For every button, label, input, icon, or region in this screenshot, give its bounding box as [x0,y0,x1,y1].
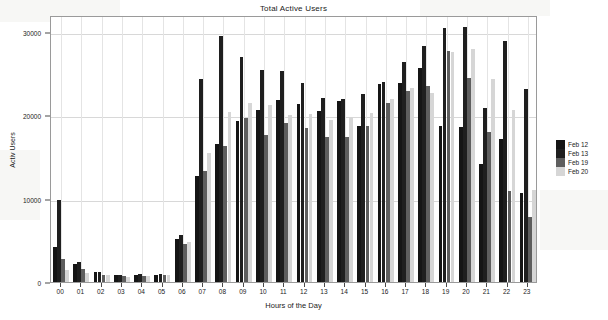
legend-item: Feb 12 [556,140,604,149]
x-tick-mark [182,283,183,287]
bar-group [73,17,89,282]
x-axis-label: Hours of the Day [50,301,537,310]
bar-group [439,17,455,282]
bar-group [236,17,252,282]
x-tick-mark [304,283,305,287]
bar-group [154,17,170,282]
y-tick-label: 20000 [23,113,41,120]
bar [532,190,536,282]
x-tick-label: 06 [178,288,185,295]
x-tick-mark [80,283,81,287]
x-tick-label: 13 [320,288,327,295]
x-tick-label: 22 [503,288,510,295]
x-tick-label: 16 [381,288,388,295]
bar-group [337,17,353,282]
bar [228,112,232,282]
x-tick-mark [507,283,508,287]
x-tick-mark [263,283,264,287]
y-tick-label: 30000 [23,29,41,36]
legend-item: Feb 13 [556,149,604,158]
bar-group [215,17,231,282]
legend-label: Feb 12 [568,141,588,148]
y-tick-label: 10000 [23,196,41,203]
x-tick-mark [365,283,366,287]
x-tick-mark [222,283,223,287]
bar-group [94,17,110,282]
bar-group [499,17,515,282]
bar [65,270,69,282]
bar-group [398,17,414,282]
bar-group [459,17,475,282]
x-tick-label: 21 [483,288,490,295]
plot-area [50,16,537,283]
x-tick-mark [405,283,406,287]
bar-group [175,17,191,282]
x-tick-label: 12 [300,288,307,295]
x-tick-mark [101,283,102,287]
y-tick-label: 0 [37,280,41,287]
chart-legend: Feb 12Feb 13Feb 19Feb 20 [556,140,604,176]
x-tick-label: 14 [341,288,348,295]
bar-group [297,17,313,282]
bar [268,105,272,282]
bar [329,120,333,282]
x-tick-label: 18 [422,288,429,295]
bar [187,242,191,282]
bar-group [418,17,434,282]
bar [349,117,353,282]
bar-group [276,17,292,282]
x-tick-label: 09 [239,288,246,295]
x-tick-mark [121,283,122,287]
bar-group [378,17,394,282]
legend-swatch [556,158,565,167]
scan-artifact [540,190,608,250]
x-tick-mark [385,283,386,287]
bar-group [256,17,272,282]
legend-label: Feb 19 [568,159,588,166]
x-tick-mark [486,283,487,287]
x-tick-mark [202,283,203,287]
legend-swatch [556,140,565,149]
x-tick-label: 04 [138,288,145,295]
bar [106,275,110,282]
bar [370,113,374,282]
x-tick-label: 08 [219,288,226,295]
x-tick-label: 23 [523,288,530,295]
x-tick-label: 11 [280,288,287,295]
bar [146,276,150,282]
bar-group [520,17,536,282]
bar [390,99,394,282]
bar-group [114,17,130,282]
bars-layer [51,17,536,282]
bar [512,110,516,282]
chart-title: Total Active Users [50,4,537,13]
x-tick-mark [141,283,142,287]
x-tick-label: 10 [259,288,266,295]
bar [85,273,89,282]
bar [207,153,211,282]
x-tick-label: 17 [401,288,408,295]
y-axis-label: Activ Users [9,132,16,167]
legend-swatch [556,149,565,158]
bar [410,88,414,282]
bar [491,79,495,282]
x-tick-mark [425,283,426,287]
bar [126,277,130,282]
bar-group [357,17,373,282]
x-tick-label: 01 [77,288,84,295]
bar-group [479,17,495,282]
x-tick-label: 03 [117,288,124,295]
x-tick-mark [60,283,61,287]
bar [248,103,252,282]
x-tick-label: 20 [462,288,469,295]
x-tick-mark [466,283,467,287]
bar [309,114,313,282]
bar [430,93,434,282]
x-tick-mark [162,283,163,287]
legend-item: Feb 19 [556,158,604,167]
bar-group [53,17,69,282]
x-tick-label: 05 [158,288,165,295]
x-tick-label: 19 [442,288,449,295]
x-tick-mark [446,283,447,287]
legend-label: Feb 13 [568,150,588,157]
